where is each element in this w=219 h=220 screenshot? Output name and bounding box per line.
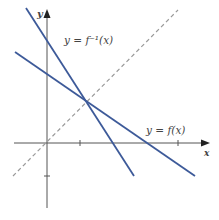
y-axis-arrow-icon [44,9,51,18]
axis-ticks [44,140,178,176]
inverse-function-figure: y x y = f⁻¹(x) y = f(x) [0,0,219,220]
graph-canvas: y x y = f⁻¹(x) y = f(x) [0,0,219,220]
function-label: y = f(x) [145,124,185,136]
x-axis-label: x [203,148,210,158]
y-axis-label: y [36,8,44,19]
function-line [15,52,195,176]
inverse-function-label: y = f⁻¹(x) [63,34,113,46]
x-axis-arrow-icon [201,140,210,147]
